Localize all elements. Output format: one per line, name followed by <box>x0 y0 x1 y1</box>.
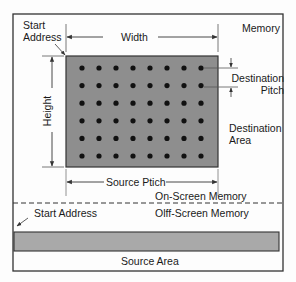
start-address-arrow-bottom <box>17 218 28 226</box>
pixel-dot <box>147 153 152 158</box>
pixel-dot <box>164 101 169 106</box>
pixel-dot <box>113 83 118 88</box>
pixel-dot <box>96 101 101 106</box>
pixel-dot <box>130 101 135 106</box>
pixel-dot <box>130 153 135 158</box>
start-address-label-top: Start Address <box>23 19 62 43</box>
pixel-dot <box>147 118 152 123</box>
destination-area-rect <box>66 56 218 167</box>
pixel-dot <box>181 65 186 70</box>
pixel-dot <box>181 153 186 158</box>
pixel-dot <box>96 153 101 158</box>
pixel-dot <box>79 101 84 106</box>
pixel-dot <box>198 101 203 106</box>
pixel-dot <box>96 83 101 88</box>
pixel-dot <box>130 65 135 70</box>
pixel-dot <box>147 83 152 88</box>
pixel-dot <box>113 101 118 106</box>
start-address-label-bottom: Start Address <box>34 207 97 219</box>
pixel-dot <box>198 153 203 158</box>
pixel-dot <box>181 136 186 141</box>
pixel-dot <box>113 153 118 158</box>
pixel-dot <box>147 136 152 141</box>
pixel-dot <box>198 83 203 88</box>
pixel-dot <box>198 65 203 70</box>
start-address-arrow-top <box>55 44 65 55</box>
pixel-dot <box>96 65 101 70</box>
memory-label: Memory <box>242 22 280 34</box>
source-area-label: Source Area <box>121 255 179 267</box>
pixel-dot <box>164 65 169 70</box>
pixel-dot <box>113 136 118 141</box>
pixel-dot <box>181 101 186 106</box>
pixel-dot <box>96 136 101 141</box>
pixel-dot <box>147 101 152 106</box>
pixel-dot <box>164 83 169 88</box>
width-label: Width <box>119 31 150 43</box>
source-pitch-label: Source Ptich <box>106 176 166 188</box>
destination-area-label: Destination Area <box>229 122 282 146</box>
pixel-dot <box>164 136 169 141</box>
pixel-dot <box>198 136 203 141</box>
pixel-dot <box>164 118 169 123</box>
pixel-dot <box>130 118 135 123</box>
pixel-dot <box>96 118 101 123</box>
pixel-dot <box>130 136 135 141</box>
pixel-dot <box>79 118 84 123</box>
pixel-dot <box>113 118 118 123</box>
pixel-dot <box>181 118 186 123</box>
pixel-dot <box>147 65 152 70</box>
pixel-dot <box>79 83 84 88</box>
on-screen-memory-label: On-Screen Memory <box>155 190 247 202</box>
source-area-rect <box>14 232 279 251</box>
pixel-dot <box>79 65 84 70</box>
pixel-dot <box>164 153 169 158</box>
pixel-dot <box>198 118 203 123</box>
pixel-dot <box>113 65 118 70</box>
pixel-dot <box>79 136 84 141</box>
pixel-dot <box>130 83 135 88</box>
off-screen-memory-label: Olff-Screen Memory <box>155 207 249 219</box>
destination-pitch-label: Destination Pitch <box>222 72 284 96</box>
height-label: Height <box>41 94 53 128</box>
pixel-dot <box>79 153 84 158</box>
pixel-dot <box>181 83 186 88</box>
